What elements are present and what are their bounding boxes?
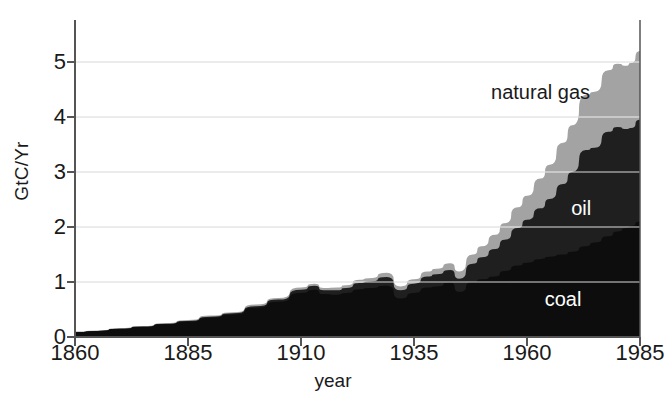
x-tick-label-1860: 1860: [15, 342, 135, 364]
x-tick-label-1910: 1910: [241, 342, 361, 364]
x-tick-label-1960: 1960: [467, 342, 587, 364]
plot-area: [0, 0, 666, 396]
x-tick-label-1885: 1885: [128, 342, 248, 364]
x-axis-title: year: [0, 370, 666, 392]
x-tick-label-1985: 1985: [580, 342, 666, 364]
x-tick-label-1935: 1935: [354, 342, 474, 364]
annotation-coal: coal: [545, 289, 582, 309]
annotation-natural-gas: natural gas: [491, 82, 590, 102]
annotation-oil: oil: [571, 198, 591, 218]
chart-figure: GtC/Yr 012345 natural gasoilcoal 1860188…: [0, 0, 666, 396]
